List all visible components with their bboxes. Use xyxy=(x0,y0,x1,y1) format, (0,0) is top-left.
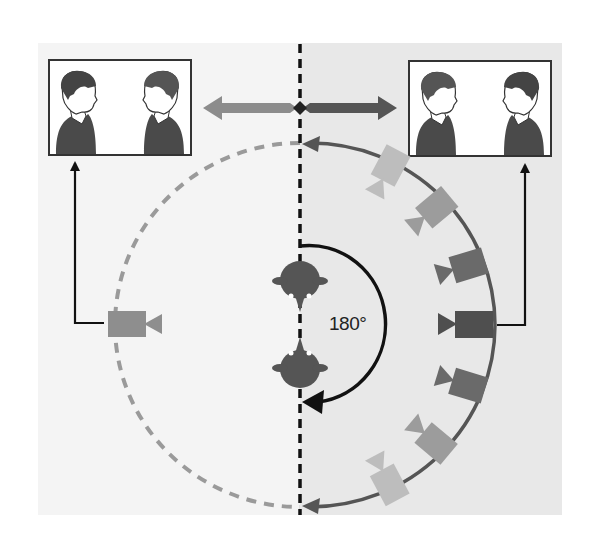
left-shot-frame xyxy=(49,60,191,155)
angle-label: 180° xyxy=(329,313,366,335)
180-degree-rule-diagram xyxy=(0,0,597,553)
right-shot-frame xyxy=(409,61,551,156)
